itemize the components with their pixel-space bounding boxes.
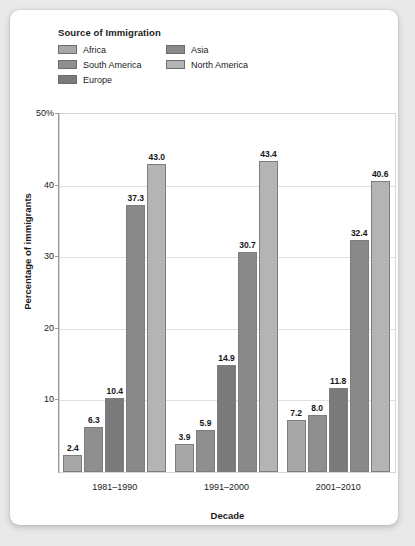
bar-slot: 40.6 — [371, 114, 390, 472]
legend-swatch-north-america — [166, 60, 185, 69]
bar-slot: 3.9 — [175, 114, 194, 472]
bar[interactable] — [63, 455, 82, 472]
bar[interactable] — [105, 398, 124, 472]
bar-slot: 43.0 — [147, 114, 166, 472]
bar-slot: 37.3 — [126, 114, 145, 472]
bar-value-label: 2.4 — [67, 443, 79, 453]
bar-value-label: 5.9 — [200, 418, 212, 428]
bar[interactable] — [217, 365, 236, 472]
bar[interactable] — [259, 161, 278, 472]
x-axis-title: Decade — [59, 510, 396, 521]
legend-item-north-america: North America — [166, 58, 296, 71]
legend-entries: Africa Asia South America North America … — [58, 43, 348, 86]
legend-swatch-africa — [58, 45, 77, 54]
legend-label-south-america: South America — [83, 60, 142, 70]
legend-swatch-asia — [166, 45, 185, 54]
bar[interactable] — [238, 252, 257, 472]
legend-item-south-america: South America — [58, 58, 166, 71]
bar-value-label: 6.3 — [88, 415, 100, 425]
bar-slot: 5.9 — [196, 114, 215, 472]
legend-title: Source of Immigration — [58, 27, 348, 38]
bar-value-label: 43.4 — [260, 149, 277, 159]
bar[interactable] — [329, 388, 348, 472]
y-axis-tick-label: 50% — [10, 108, 54, 118]
legend-item-asia: Asia — [166, 43, 296, 56]
legend-item-europe: Europe — [58, 73, 166, 86]
bar-group: 2.46.310.437.343.0 — [63, 114, 168, 472]
legend-label-europe: Europe — [83, 75, 112, 85]
chart-card: Source of Immigration Africa Asia South … — [10, 10, 398, 525]
bar[interactable] — [175, 444, 194, 472]
bar-value-label: 37.3 — [128, 193, 145, 203]
plot-area: 2.46.310.437.343.03.95.914.930.743.47.28… — [60, 114, 395, 472]
bar-value-label: 8.0 — [311, 403, 323, 413]
bar-slot: 2.4 — [63, 114, 82, 472]
y-axis-title: Percentage of immigrants — [22, 167, 33, 337]
bar-value-label: 11.8 — [330, 376, 346, 386]
bar-value-label: 32.4 — [351, 228, 368, 238]
y-axis-tick-label: 10 — [10, 394, 54, 404]
legend-label-asia: Asia — [191, 45, 209, 55]
legend-label-north-america: North America — [191, 60, 248, 70]
plot-frame: 2.46.310.437.343.03.95.914.930.743.47.28… — [59, 113, 396, 473]
bar-value-label: 7.2 — [290, 408, 302, 418]
bar-slot: 6.3 — [84, 114, 103, 472]
bar-value-label: 10.4 — [107, 386, 124, 396]
bar-slot: 7.2 — [287, 114, 306, 472]
bar-slot: 11.8 — [329, 114, 348, 472]
bar-slot: 8.0 — [308, 114, 327, 472]
chart-legend: Source of Immigration Africa Asia South … — [58, 27, 348, 86]
bar[interactable] — [287, 420, 306, 472]
bar[interactable] — [350, 240, 369, 472]
bar-slot: 10.4 — [105, 114, 124, 472]
x-axis-tick-label: 1991–2000 — [172, 482, 282, 492]
bar[interactable] — [196, 430, 215, 472]
x-axis-tick-label: 2001–2010 — [283, 482, 393, 492]
legend-swatch-south-america — [58, 60, 77, 69]
bar-value-label: 40.6 — [372, 169, 389, 179]
legend-item-africa: Africa — [58, 43, 166, 56]
x-axis-tick-label: 1981–1990 — [60, 482, 170, 492]
bar-value-label: 14.9 — [218, 353, 235, 363]
bar-group: 3.95.914.930.743.4 — [175, 114, 280, 472]
bar[interactable] — [371, 181, 390, 472]
bar-group: 7.28.011.832.440.6 — [287, 114, 392, 472]
bar-value-label: 30.7 — [239, 240, 256, 250]
bar[interactable] — [84, 427, 103, 472]
bar[interactable] — [147, 164, 166, 472]
bar[interactable] — [126, 205, 145, 472]
bar-slot: 14.9 — [217, 114, 236, 472]
bar-slot: 30.7 — [238, 114, 257, 472]
bar[interactable] — [308, 415, 327, 472]
bar-slot: 32.4 — [350, 114, 369, 472]
legend-label-africa: Africa — [83, 45, 106, 55]
bar-value-label: 3.9 — [179, 432, 191, 442]
bar-value-label: 43.0 — [149, 152, 166, 162]
legend-swatch-europe — [58, 75, 77, 84]
bar-slot: 43.4 — [259, 114, 278, 472]
